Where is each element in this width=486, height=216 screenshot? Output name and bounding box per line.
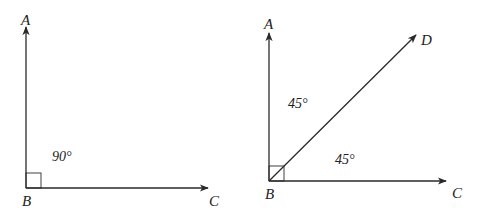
label-point-d: D: [420, 32, 432, 48]
label-point-c: C: [209, 193, 220, 209]
angle-label-abc: 90°: [52, 149, 72, 164]
right-angle-marker: [26, 173, 41, 188]
label-point-a: A: [20, 12, 31, 28]
label-point-c: C: [452, 185, 463, 201]
label-point-b: B: [265, 186, 274, 202]
diagram-right-angle: A B C 90°: [20, 12, 220, 209]
angle-diagrams: A B C 90° A B C D 45° 45°: [0, 0, 486, 216]
label-point-b: B: [22, 193, 31, 209]
angle-label-abd: 45°: [288, 96, 308, 111]
label-point-a: A: [263, 16, 274, 32]
angle-label-dbc: 45°: [335, 152, 355, 167]
diagram-bisected-right-angle: A B C D 45° 45°: [263, 16, 463, 202]
